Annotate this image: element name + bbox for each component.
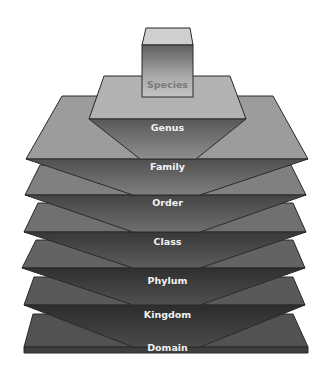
label-order: Order <box>152 197 183 208</box>
taxonomy-pyramid-diagram: Species Genus Family Order Class Phylum … <box>0 0 331 375</box>
label-class: Class <box>154 236 182 247</box>
label-genus: Genus <box>151 122 185 133</box>
label-family: Family <box>150 161 186 172</box>
label-phylum: Phylum <box>148 275 188 286</box>
label-species: Species <box>147 79 188 90</box>
species-top <box>142 28 193 45</box>
label-kingdom: Kingdom <box>144 309 192 320</box>
label-domain: Domain <box>147 342 188 353</box>
